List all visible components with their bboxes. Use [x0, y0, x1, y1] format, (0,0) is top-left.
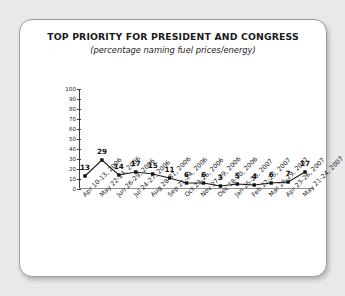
chart-card: TOP PRIORITY FOR PRESIDENT AND CONGRESS … — [19, 19, 327, 277]
chart-title: TOP PRIORITY FOR PRESIDENT AND CONGRESS — [20, 31, 326, 42]
y-tick-label: 50 — [69, 136, 76, 142]
y-tick-label: 90 — [69, 96, 76, 102]
y-tick-label: 10 — [69, 176, 76, 182]
y-tick-label: 70 — [69, 116, 76, 122]
y-tick-label: 30 — [69, 156, 76, 162]
data-value-label: 29 — [97, 147, 107, 156]
data-point-marker — [83, 174, 86, 177]
plot-area: 0102030405060708090100 13291417151166354… — [79, 89, 313, 189]
y-tick-label: 60 — [69, 126, 76, 132]
y-tick-label: 40 — [69, 146, 76, 152]
chart-subtitle: (percentage naming fuel prices/energy) — [20, 45, 326, 55]
y-tick-label: 100 — [65, 86, 76, 92]
y-tick-label: 20 — [69, 166, 76, 172]
y-tick-mark — [77, 189, 81, 190]
data-value-label: 13 — [80, 163, 90, 172]
y-tick-label: 0 — [72, 186, 76, 192]
data-point-marker — [100, 158, 103, 161]
y-tick-label: 80 — [69, 106, 76, 112]
